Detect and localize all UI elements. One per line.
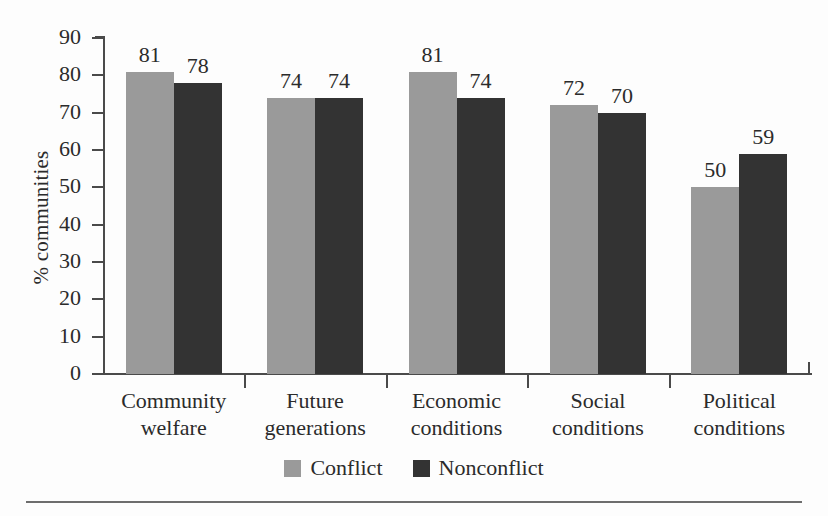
bottom-divider xyxy=(26,501,802,503)
bar-conflict xyxy=(691,187,739,374)
category-label-line: conditions xyxy=(649,414,828,441)
category-label-line: Political xyxy=(649,387,828,414)
bar-nonconflict xyxy=(739,154,787,374)
bar-value-label: 70 xyxy=(592,85,652,107)
x-axis-category-label: Politicalconditions xyxy=(649,387,828,441)
y-axis-tick-label: 30 xyxy=(35,250,81,272)
bar-nonconflict xyxy=(457,98,505,374)
y-axis-tick-label: 70 xyxy=(35,101,81,123)
legend-label: Nonconflict xyxy=(439,455,544,481)
y-axis-tick-label: 20 xyxy=(35,287,81,309)
y-axis-tick-label: 40 xyxy=(35,213,81,235)
bar-conflict xyxy=(409,72,457,374)
y-axis-tick-label: 90 xyxy=(35,26,81,48)
bar-conflict xyxy=(550,105,598,374)
bar-nonconflict xyxy=(315,98,363,374)
bar-value-label: 59 xyxy=(733,126,793,148)
legend-swatch-icon xyxy=(413,460,430,477)
y-axis-tick-label: 10 xyxy=(35,325,81,347)
chart-legend: ConflictNonconflict xyxy=(0,455,828,481)
bar-value-label: 78 xyxy=(168,55,228,77)
y-axis-tick-label: 60 xyxy=(35,138,81,160)
y-axis-tick-label: 80 xyxy=(35,63,81,85)
bar-nonconflict xyxy=(174,83,222,374)
legend-item-nonconflict[interactable]: Nonconflict xyxy=(413,455,544,481)
bar-value-label: 50 xyxy=(685,159,745,181)
legend-swatch-icon xyxy=(284,460,301,477)
bar-chart-figure: % communities 9080706050403020100 817874… xyxy=(0,0,828,516)
bar-nonconflict xyxy=(598,113,646,374)
bar-value-label: 74 xyxy=(309,70,369,92)
y-axis-tick-label: 50 xyxy=(35,175,81,197)
bar-conflict xyxy=(267,98,315,374)
legend-label: Conflict xyxy=(310,455,382,481)
bar-value-label: 74 xyxy=(451,70,511,92)
bar-conflict xyxy=(126,72,174,374)
y-axis-tick-label: 0 xyxy=(35,362,81,384)
bar-value-label: 81 xyxy=(403,44,463,66)
legend-item-conflict[interactable]: Conflict xyxy=(284,455,382,481)
